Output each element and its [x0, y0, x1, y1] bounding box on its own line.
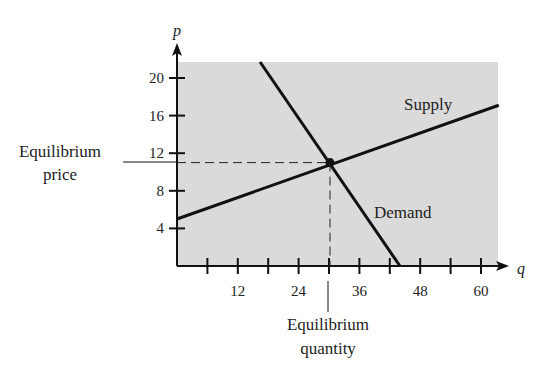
y-tick-label: 8: [157, 183, 165, 199]
demand-label: Demand: [374, 203, 432, 222]
y-tick-label: 4: [157, 220, 165, 236]
x-tick-label: 12: [230, 283, 245, 299]
equilibrium-quantity-label-line2: quantity: [300, 339, 356, 358]
y-tick-label: 12: [149, 145, 164, 161]
equilibrium-quantity-label-line1: Equilibrium: [287, 315, 369, 334]
equilibrium-price-label-line1: Equilibrium: [19, 142, 101, 161]
x-tick-label: 60: [474, 283, 489, 299]
equilibrium-price-label-line2: price: [43, 165, 77, 184]
y-tick-label: 20: [149, 70, 164, 86]
supply-demand-chart: 1224364860 48121620 p q Supply Demand Eq…: [0, 0, 550, 373]
x-tick-label: 24: [291, 283, 307, 299]
y-tick-label: 16: [149, 108, 165, 124]
y-axis-label: p: [172, 22, 181, 40]
x-tick-label: 36: [352, 283, 368, 299]
x-axis-label: q: [517, 260, 525, 278]
plot-area: [177, 62, 498, 266]
equilibrium-point: [326, 158, 335, 167]
supply-label: Supply: [404, 95, 453, 114]
x-tick-label: 48: [413, 283, 428, 299]
